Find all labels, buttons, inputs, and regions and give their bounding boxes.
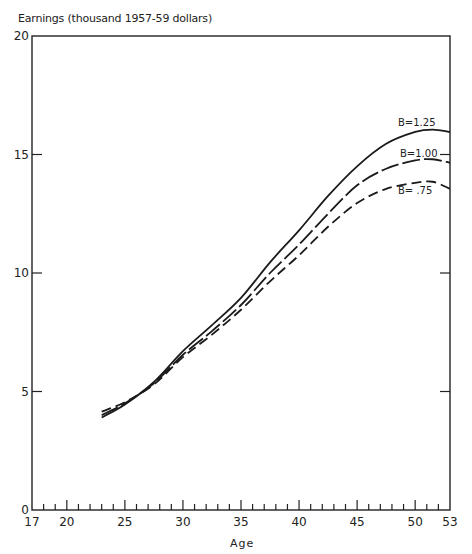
x-tick-label: 30 — [175, 515, 190, 529]
x-tick-label: 25 — [117, 515, 132, 529]
earnings-chart: 17202530354045505305101520 B=1.25 B=1.00… — [0, 0, 472, 554]
x-tick-label: 17 — [24, 515, 39, 529]
label-b125: B=1.25 — [398, 117, 436, 128]
x-tick-label: 20 — [59, 515, 74, 529]
x-tick-label: 45 — [349, 515, 364, 529]
x-tick-label: 53 — [442, 515, 457, 529]
label-b100: B=1.00 — [400, 148, 438, 159]
x-tick-label: 40 — [291, 515, 306, 529]
curves — [102, 130, 450, 418]
y-tick-label: 0 — [21, 503, 29, 517]
curve-B125 — [102, 130, 450, 418]
curve-B75 — [102, 181, 450, 411]
y-tick-label: 20 — [14, 29, 29, 43]
axes — [32, 36, 450, 510]
axis-ticks: 17202530354045505305101520 — [14, 29, 458, 529]
y-tick-label: 5 — [21, 385, 29, 399]
plot-frame — [32, 36, 450, 510]
y-tick-label: 15 — [14, 148, 29, 162]
x-tick-label: 50 — [408, 515, 423, 529]
curve-B100 — [102, 159, 450, 415]
x-tick-label: 35 — [233, 515, 248, 529]
y-tick-label: 10 — [14, 266, 29, 280]
label-b075: B= .75 — [398, 185, 432, 196]
